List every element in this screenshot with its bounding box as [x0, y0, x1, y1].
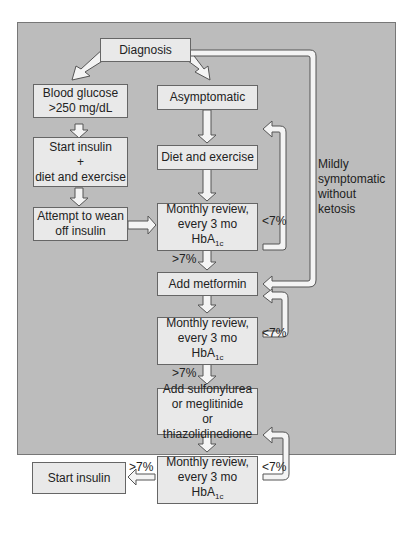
- arrow-icon: [198, 168, 216, 201]
- arrow-icon: [198, 250, 216, 270]
- review-line1: Monthly review,: [166, 202, 249, 217]
- node-monthly-review-1: Monthly review, every 3 mo HbA1c: [157, 203, 258, 251]
- node-monthly-review-3: Monthly review, every 3 mo HbA1c: [157, 456, 258, 504]
- arrow-icon: [70, 188, 88, 206]
- hba1c-label: HbA1c: [192, 346, 224, 365]
- label-gt7-1: >7%: [172, 252, 196, 266]
- review-line1: Monthly review,: [166, 455, 249, 470]
- label-gt7-2: >7%: [172, 366, 196, 380]
- node-monthly-review-2: Monthly review, every 3 mo HbA1c: [157, 317, 258, 365]
- node-add-sulfonylurea: Add sulfonylurea or meglitinide or thiaz…: [157, 388, 258, 435]
- label-gt7-3: >7%: [129, 460, 153, 474]
- label-mildly-symptomatic: Mildly symptomatic without ketosis: [318, 157, 385, 217]
- node-wean-insulin: Attempt to wean off insulin: [33, 207, 128, 241]
- hba1c-label: HbA1c: [192, 485, 224, 504]
- hba1c-label: HbA1c: [192, 232, 224, 251]
- node-blood-glucose: Blood glucose >250 mg/dL: [33, 84, 128, 118]
- arrow-icon: [70, 124, 88, 138]
- node-add-metformin: Add metformin: [157, 272, 258, 296]
- node-diagnosis: Diagnosis: [100, 38, 191, 62]
- node-start-insulin-diet: Start insulin + diet and exercise: [33, 137, 128, 187]
- label-lt7-1: <7%: [262, 214, 286, 228]
- label-lt7-2: <7%: [262, 326, 286, 340]
- node-start-insulin: Start insulin: [32, 462, 126, 494]
- review-line2: every 3 mo: [178, 470, 237, 485]
- arrow-icon: [198, 295, 216, 313]
- review-line2: every 3 mo: [178, 217, 237, 232]
- arrow-icon: [198, 110, 216, 143]
- node-asymptomatic: Asymptomatic: [157, 85, 258, 110]
- label-lt7-3: <7%: [262, 460, 286, 474]
- node-diet-exercise: Diet and exercise: [157, 145, 258, 170]
- arrow-icon: [128, 216, 156, 234]
- review-line2: every 3 mo: [178, 331, 237, 346]
- review-line1: Monthly review,: [166, 316, 249, 331]
- loop-arrow-icon: [263, 121, 286, 250]
